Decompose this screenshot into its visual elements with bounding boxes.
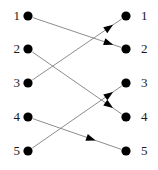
node-label-right-3: 3 [141, 76, 155, 89]
graph-node-left-4 [23, 112, 32, 121]
graph-node-left-3 [23, 78, 32, 87]
graph-edge [33, 119, 121, 150]
graph-node-right-2 [121, 44, 130, 53]
graph-node-right-4 [121, 112, 130, 121]
node-label-right-4: 4 [141, 110, 155, 123]
node-label-left-3: 3 [6, 76, 20, 89]
graph-node-left-1 [23, 11, 32, 20]
edge-arrowhead-icon [103, 100, 113, 108]
graph-node-right-1 [121, 11, 130, 20]
edge-layer [32, 18, 121, 150]
edge-arrowhead-icon [103, 92, 113, 100]
edge-arrowhead-icon [103, 25, 113, 33]
graph-node-right-5 [121, 146, 130, 155]
node-label-left-1: 1 [6, 9, 20, 22]
bipartite-graph-diagram: 1234512345 [0, 0, 158, 170]
graph-node-right-3 [121, 78, 130, 87]
node-label-right-5: 5 [141, 144, 155, 157]
edge-arrowhead-icon [85, 134, 95, 141]
node-label-right-2: 2 [141, 42, 155, 55]
arrowhead-layer [85, 25, 113, 141]
graph-node-left-2 [23, 44, 32, 53]
node-label-left-5: 5 [6, 144, 20, 157]
node-label-right-1: 1 [141, 9, 155, 22]
node-label-left-2: 2 [6, 42, 20, 55]
graph-node-left-5 [23, 146, 32, 155]
edge-arrowhead-icon [103, 38, 113, 45]
graph-canvas [0, 0, 158, 170]
node-label-left-4: 4 [6, 110, 20, 123]
